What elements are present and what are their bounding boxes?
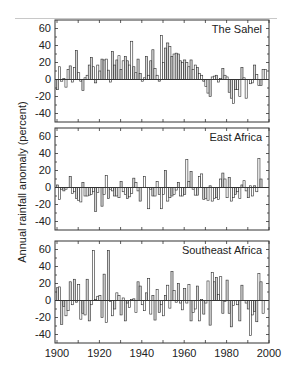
bar [73,279,75,300]
bar [56,288,58,301]
bar [201,75,203,79]
y-tick-label: -20 [35,198,51,210]
bar [135,73,137,80]
bar [107,70,109,79]
bar [211,188,213,202]
bar [182,301,184,310]
bar [215,278,217,301]
y-tick-label: -40 [35,215,51,227]
bar [218,188,220,200]
bar [118,56,120,80]
bar [179,188,181,197]
bar [194,65,196,79]
bar [165,171,167,188]
bars [56,159,262,212]
bar [160,35,162,79]
bar [63,188,65,191]
bars [56,250,264,335]
bar [251,80,253,83]
bar [196,188,198,196]
bar [182,63,184,80]
y-axis-label: Annual rainfall anomaly (percent) [16,82,28,282]
bar [114,65,116,79]
bar [120,301,122,315]
y-tick-label: 40 [39,39,51,51]
bar [114,188,116,197]
bar [251,301,253,315]
bar [152,295,154,300]
bar [59,188,61,200]
bar [184,60,186,80]
bar [84,188,86,197]
bar [80,301,82,320]
bar [247,188,249,198]
bar [260,282,262,301]
bar [196,68,198,80]
bar [99,295,101,300]
y-tick-label: 20 [39,277,51,289]
bar [167,188,169,202]
bar [201,174,203,188]
x-tick-label: 1920 [87,347,111,359]
bar [101,188,103,207]
bar [59,67,61,80]
bar [169,46,171,79]
bar [186,159,188,187]
bar [116,60,118,80]
bar [249,301,251,336]
y-tick-label: 60 [39,243,51,255]
bar [105,59,107,79]
bar [154,68,156,79]
bar [230,80,232,99]
bar [237,301,239,305]
bar [249,80,251,84]
bar [150,61,152,80]
bar [169,188,171,198]
bar [143,301,145,311]
bar [228,301,230,314]
bar [116,293,118,301]
y-tick-label: 40 [39,260,51,272]
bar [124,301,126,321]
bar [137,59,139,79]
bar [184,188,186,195]
bar [143,176,145,187]
bar [152,50,154,80]
bar [73,68,75,80]
bar [188,67,190,80]
x-tick-label: 1980 [214,347,238,359]
bar [198,176,200,187]
bar [101,301,103,318]
bar [220,179,222,188]
bar [67,69,69,79]
x-tick-label: 1940 [130,347,154,359]
bar [167,43,169,80]
bar [112,51,114,79]
bar [173,54,175,80]
bar [88,188,90,196]
bar [194,188,196,196]
x-tick-label: 1960 [172,347,196,359]
bar [215,188,217,198]
bar [160,188,162,209]
bar [71,188,73,194]
bar [129,188,131,197]
panel-east-africa: -40-200204060East Africa [35,128,269,230]
bar [76,188,78,199]
x-tick-label: 2000 [257,347,281,359]
bar [97,296,99,300]
bar [69,176,71,187]
bar [254,65,256,79]
bar [232,188,234,198]
bar [232,301,234,306]
bar [92,188,94,192]
bar [198,301,200,321]
bar [99,71,101,80]
bar [131,41,133,79]
y-tick-label: 40 [39,147,51,159]
bar [222,173,224,187]
bar [175,53,177,79]
bar [256,301,258,322]
bar [264,69,266,79]
bar [205,80,207,87]
